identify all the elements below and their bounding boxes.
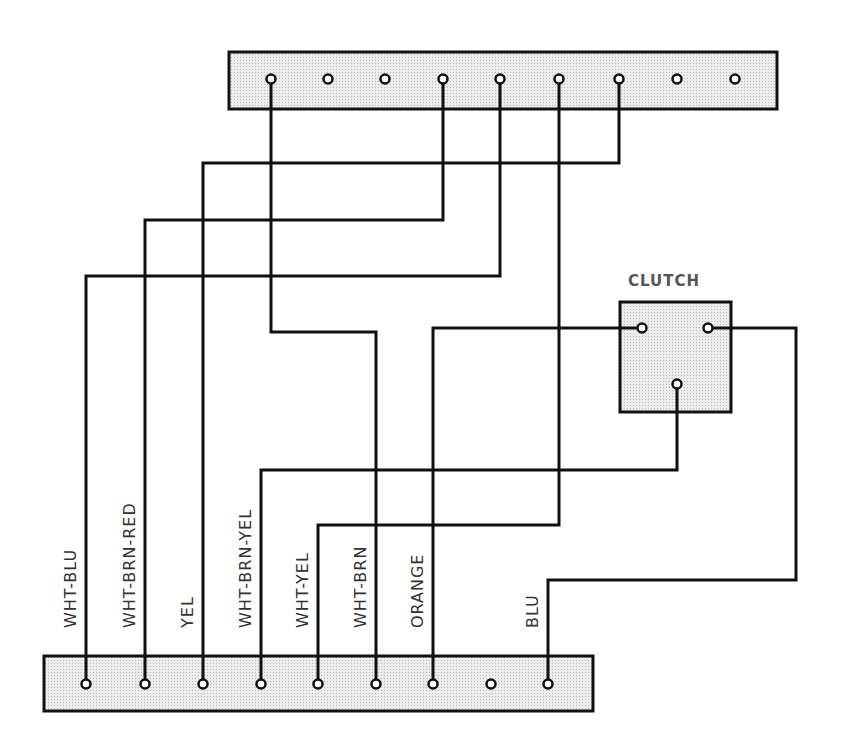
- clutch-terminal-bottom: [673, 380, 682, 389]
- top-terminal-1: [267, 75, 276, 84]
- bottom-terminal-5: [314, 680, 323, 689]
- clutch-label: CLUTCH: [628, 272, 700, 290]
- bottom-terminal-8: [487, 680, 496, 689]
- top-terminal-5: [496, 75, 505, 84]
- wire-wht-brn-yel: [261, 389, 677, 679]
- wiring-diagram: [0, 0, 841, 750]
- bottom-terminal-2: [141, 680, 150, 689]
- top-terminal-6: [555, 75, 564, 84]
- wire-label-blu: BLU: [525, 594, 541, 628]
- top-terminal-7: [615, 75, 624, 84]
- wire-label-wht-brn-red: WHT-BRN-RED: [122, 502, 138, 628]
- top-terminal-3: [381, 75, 390, 84]
- top-terminal-8: [673, 75, 682, 84]
- bottom-terminal-6: [372, 680, 381, 689]
- wire-label-wht-blu: WHT-BLU: [63, 549, 79, 628]
- wire-label-wht-yel: WHT-YEL: [295, 552, 311, 628]
- bottom-terminal-7: [429, 680, 438, 689]
- top-terminal-4: [439, 75, 448, 84]
- top-terminal-9: [731, 75, 740, 84]
- wire-label-yel: YEL: [180, 596, 196, 628]
- wire-label-orange: ORANGE: [410, 554, 426, 628]
- wire-label-wht-brn-yel: WHT-BRN-YEL: [238, 509, 254, 628]
- clutch-terminal-right: [704, 324, 713, 333]
- clutch-terminal-left: [638, 324, 647, 333]
- top-terminal-2: [324, 75, 333, 84]
- bottom-terminal-1: [82, 680, 91, 689]
- wire-label-wht-brn: WHT-BRN: [353, 546, 369, 628]
- bottom-terminal-3: [199, 680, 208, 689]
- bottom-terminal-9: [544, 680, 553, 689]
- bottom-terminal-4: [257, 680, 266, 689]
